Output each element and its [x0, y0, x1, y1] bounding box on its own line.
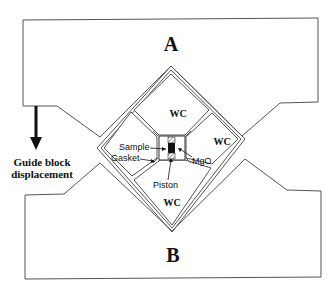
diagram-canvas: A B WC WC WC Sample Gasket Piston MgO Gu…: [0, 0, 335, 292]
block-b-label: B: [166, 244, 179, 266]
guide-displacement-arrow: [30, 106, 42, 150]
anvil-right-label: WC: [213, 136, 230, 147]
gasket-label: Gasket: [111, 153, 140, 163]
sample: [168, 143, 175, 153]
arrow-down-icon: [30, 137, 42, 150]
piston-bottom: [168, 153, 175, 159]
anvil-bottom-label: WC: [163, 197, 180, 208]
guide-label-line1: Guide block: [13, 156, 71, 168]
anvil-top-label: WC: [169, 108, 186, 119]
sample-label: Sample: [119, 142, 150, 152]
guide-label-line2: displacement: [11, 168, 73, 180]
block-a-label: A: [164, 33, 179, 55]
mgo-label: MgO: [192, 156, 212, 166]
piston-label: Piston: [153, 180, 178, 190]
piston-top: [168, 137, 175, 143]
